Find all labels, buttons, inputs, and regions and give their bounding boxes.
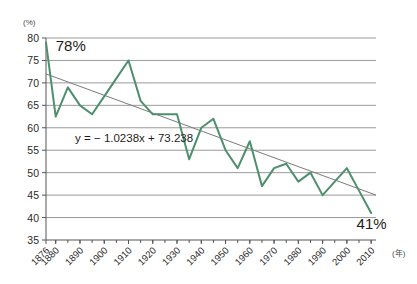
end-value-label: 41% <box>357 215 387 232</box>
y-tick-label-75: 75 <box>27 54 39 66</box>
equation-label: y = − 1.0238x + 73.238 <box>75 132 193 144</box>
x-axis-unit-label: (年) <box>392 248 406 258</box>
y-tick-label-80: 80 <box>27 32 39 44</box>
y-tick-label-55: 55 <box>27 144 39 156</box>
y-tick-label-50: 50 <box>27 167 39 179</box>
start-value-label: 78% <box>56 37 86 54</box>
y-tick-label-40: 40 <box>27 212 39 224</box>
y-tick-label-60: 60 <box>27 122 39 134</box>
y-axis-unit-label: (%) <box>23 18 36 27</box>
chart-container: 80757065605550454035 1876188018901900191… <box>0 0 417 284</box>
y-tick-label-35: 35 <box>27 234 39 246</box>
y-tick-label-70: 70 <box>27 77 39 89</box>
line-chart: 80757065605550454035 1876188018901900191… <box>0 0 417 284</box>
y-tick-label-65: 65 <box>27 99 39 111</box>
y-tick-label-45: 45 <box>27 189 39 201</box>
